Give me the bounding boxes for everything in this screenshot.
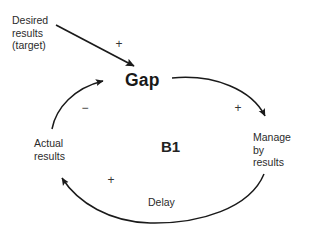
- polarity-minus-actual-to-gap: −: [79, 102, 91, 114]
- polarity-plus-gap-to-manage: +: [232, 102, 244, 114]
- loop-identifier-b1: B1: [161, 138, 180, 155]
- node-actual-results: Actual results: [34, 137, 65, 162]
- node-manage-by-results: Manage by results: [253, 131, 291, 169]
- link-actual-results-to-gap: [52, 81, 103, 129]
- node-gap: Gap: [125, 70, 160, 91]
- node-desired-results: Desired results (target): [12, 14, 48, 52]
- delay-label: Delay: [148, 196, 175, 208]
- polarity-plus-manage-to-actual: +: [105, 174, 117, 186]
- link-gap-to-manage-by-results: [172, 77, 265, 116]
- diagram-canvas: Desired results (target) Gap Manage by r…: [0, 0, 312, 238]
- polarity-plus-desired-to-gap: +: [113, 38, 125, 50]
